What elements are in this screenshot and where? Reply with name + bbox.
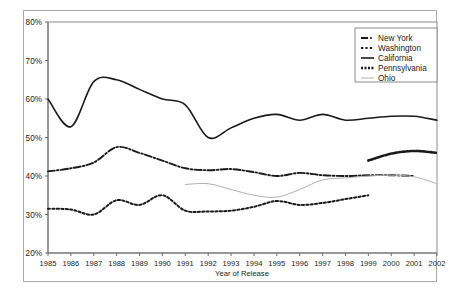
x-tick-label: 2001	[406, 259, 423, 268]
y-tick-label: 60%	[26, 95, 42, 104]
x-tick-label: 1990	[154, 259, 171, 268]
x-axis-tick-labels: 1985198619871988198919901991199219931994…	[40, 259, 446, 268]
line-chart-svg: 20%30%40%50%60%70%80% 198519861987198819…	[0, 0, 459, 296]
legend-label: Pennsylvania	[378, 64, 427, 73]
x-tick-label: 1995	[268, 259, 285, 268]
x-tick-label: 2002	[429, 259, 446, 268]
y-tick-label: 70%	[26, 57, 42, 66]
x-tick-label: 1985	[40, 259, 57, 268]
x-tick-label: 1987	[85, 259, 102, 268]
x-tick-label: 1988	[108, 259, 125, 268]
x-axis-title: Year of Release	[215, 269, 269, 278]
x-tick-label: 2000	[383, 259, 400, 268]
x-tick-label: 1999	[360, 259, 377, 268]
y-tick-label: 30%	[26, 211, 42, 220]
y-axis-tick-labels: 20%30%40%50%60%70%80%	[26, 18, 42, 258]
chart-figure: 20%30%40%50%60%70%80% 198519861987198819…	[0, 0, 459, 296]
y-tick-label: 50%	[26, 134, 42, 143]
y-tick-label: 40%	[26, 172, 42, 181]
y-tick-label: 20%	[26, 249, 42, 258]
x-tick-label: 1996	[291, 259, 308, 268]
x-tick-label: 1986	[62, 259, 79, 268]
y-tick-label: 80%	[26, 18, 42, 27]
x-tick-label: 1994	[245, 259, 262, 268]
legend-label: Washington	[378, 44, 421, 53]
chart-legend: New YorkWashingtonCaliforniaPennsylvania…	[355, 28, 437, 83]
chart-canvas: 20%30%40%50%60%70%80% 198519861987198819…	[0, 0, 459, 296]
x-tick-label: 1997	[314, 259, 331, 268]
x-tick-label: 1991	[177, 259, 194, 268]
x-tick-label: 1998	[337, 259, 354, 268]
legend-label: New York	[378, 34, 413, 43]
legend-label: California	[378, 54, 413, 63]
legend-label: Ohio	[378, 74, 396, 83]
x-tick-label: 1993	[223, 259, 240, 268]
x-tick-label: 1992	[200, 259, 217, 268]
x-tick-label: 1989	[131, 259, 148, 268]
